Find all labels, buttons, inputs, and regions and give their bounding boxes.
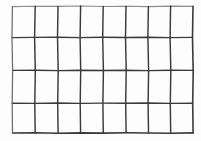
grid-line-v-6 — [148, 7, 149, 133]
grid-line-v-0 — [12, 7, 13, 133]
grid-line-v-3 — [80, 6, 81, 133]
grid-line-v-1 — [35, 6, 36, 133]
grid-line-v-4 — [103, 7, 104, 134]
grid-image-canvas — [0, 0, 201, 141]
hand-drawn-grid — [0, 0, 201, 141]
grid-line-v-5 — [126, 6, 127, 133]
grid-line-v-7 — [170, 6, 171, 133]
grid-line-v-2 — [58, 6, 59, 133]
grid-line-v-8 — [193, 6, 194, 132]
